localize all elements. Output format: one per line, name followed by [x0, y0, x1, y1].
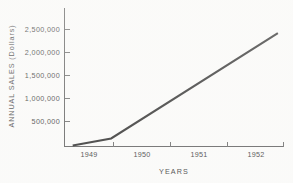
y-tick-label-1000000: 1,000,000: [25, 94, 60, 103]
y-tick-label-2000000: 2,000,000: [25, 48, 60, 57]
y-tick-label-1500000: 1,500,000: [25, 71, 60, 80]
chart-page: 2,500,000 2,000,000 1,500,000 1,000,000 …: [0, 0, 293, 183]
x-tick-label-1950: 1950: [133, 150, 150, 159]
x-tick-label-1949: 1949: [80, 150, 97, 159]
y-tick-label-500000: 500,000: [32, 117, 60, 126]
x-tick-label-1951: 1951: [190, 150, 207, 159]
x-axis-title: YEARS: [159, 167, 189, 176]
y-axis-ticks: [65, 30, 71, 122]
y-axis-title: ANNUAL SALES (Dollars): [7, 24, 16, 127]
data-series-line: [73, 33, 278, 145]
y-tick-label-2500000: 2,500,000: [25, 25, 60, 34]
x-tick-label-1952: 1952: [247, 150, 264, 159]
annual-sales-line-chart: 2,500,000 2,000,000 1,500,000 1,000,000 …: [0, 0, 293, 183]
x-axis-ticks: [114, 142, 284, 147]
